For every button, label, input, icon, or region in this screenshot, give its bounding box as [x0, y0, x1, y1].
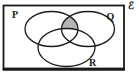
universal-set-label: ℰ [128, 0, 134, 11]
set-p-label: P [12, 9, 18, 20]
set-q-label: Q [107, 11, 115, 22]
set-r-label: R [89, 57, 97, 68]
venn-diagram-figure: P Q R ℰ [0, 0, 139, 74]
venn-diagram-canvas: P Q R ℰ [0, 0, 139, 74]
